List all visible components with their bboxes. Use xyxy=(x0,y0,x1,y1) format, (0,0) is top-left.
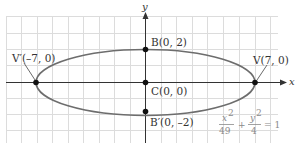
point-c xyxy=(143,80,149,86)
eq-term2-numerator: y xyxy=(249,113,256,123)
point-v xyxy=(252,80,258,86)
point-b-prime xyxy=(143,109,149,115)
y-axis-arrow-icon xyxy=(143,12,149,19)
y-axis-label: y xyxy=(141,1,148,12)
eq-equals-one: = 1 xyxy=(264,120,280,130)
label-b: B(0, 2) xyxy=(151,36,187,48)
point-v-prime xyxy=(33,80,39,86)
label-b-prime: B′(0, –2) xyxy=(150,116,194,128)
label-v-prime: V′(–7, 0) xyxy=(11,52,55,64)
eq-term2-exponent: 2 xyxy=(256,108,262,118)
label-v: V(7, 0) xyxy=(252,54,289,66)
leader-line-v xyxy=(257,65,267,80)
x-axis-arrow-icon xyxy=(280,80,287,86)
eq-term1-denominator: 49 xyxy=(219,126,231,136)
eq-term2-denominator: 4 xyxy=(251,126,257,136)
eq-term1-exponent: 2 xyxy=(228,108,234,118)
ellipse-figure: x y V′(–7, 0) V(7, 0) B(0, 2) C(0, 0) B′… xyxy=(0,0,296,149)
eq-term1-numerator: x xyxy=(222,113,227,123)
eq-plus: + xyxy=(238,120,246,130)
ellipse-diagram-svg: x y V′(–7, 0) V(7, 0) B(0, 2) C(0, 0) B′… xyxy=(0,0,296,149)
x-axis-label: x xyxy=(289,76,295,87)
point-b xyxy=(143,47,149,53)
label-c: C(0, 0) xyxy=(151,85,187,97)
